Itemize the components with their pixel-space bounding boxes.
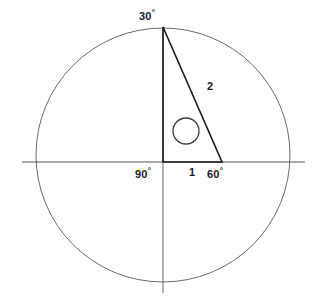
base-length-label: 1 bbox=[189, 167, 195, 178]
right-angle-label: 90 bbox=[135, 167, 151, 180]
base-angle-label: 60 bbox=[207, 167, 223, 180]
diagram-canvas bbox=[0, 0, 327, 301]
geometry-diagram: 30 90 1 60 2 bbox=[0, 0, 327, 301]
apex-angle-label: 30 bbox=[139, 9, 155, 22]
hypotenuse-length-label: 2 bbox=[207, 81, 213, 92]
inner-circle bbox=[173, 118, 199, 144]
